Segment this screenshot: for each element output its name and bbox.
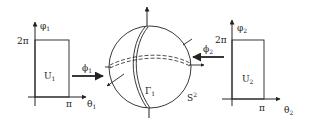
equator-dashed-inner <box>110 58 190 68</box>
right-region-label: U2 <box>242 74 254 85</box>
phi2-label: ϕ2 <box>203 44 213 55</box>
gamma1-label: Γ1 <box>145 86 155 97</box>
right-y-axis-label: φ2 <box>237 23 247 34</box>
left-y-axis-label: φ1 <box>40 21 50 32</box>
left-x-tick-pi: π <box>66 99 72 109</box>
right-chart: φ2 2π π θ2 U2 <box>215 20 293 116</box>
phi1-label: ϕ1 <box>82 63 92 74</box>
s2-label: S2 <box>187 91 197 103</box>
sphere-s2: Γ1 S2 <box>105 7 204 118</box>
map-phi2: ϕ2 <box>193 44 224 57</box>
chart-diagram: φ1 2π π θ1 U1 ϕ1 Γ1 S2 ϕ2 <box>0 0 309 127</box>
right-x-tick-pi: π <box>259 103 265 113</box>
sphere-tick-upper-right <box>183 39 192 45</box>
right-region-u2 <box>232 40 264 99</box>
left-y-tick-2pi: 2π <box>17 36 29 46</box>
left-region-u1 <box>35 40 69 97</box>
right-x-axis-label: θ2 <box>284 105 293 116</box>
left-region-label: U1 <box>44 71 55 82</box>
map-phi1: ϕ1 <box>72 63 103 76</box>
right-y-tick-2pi: 2π <box>215 35 227 45</box>
left-x-axis-label: θ1 <box>87 99 96 110</box>
